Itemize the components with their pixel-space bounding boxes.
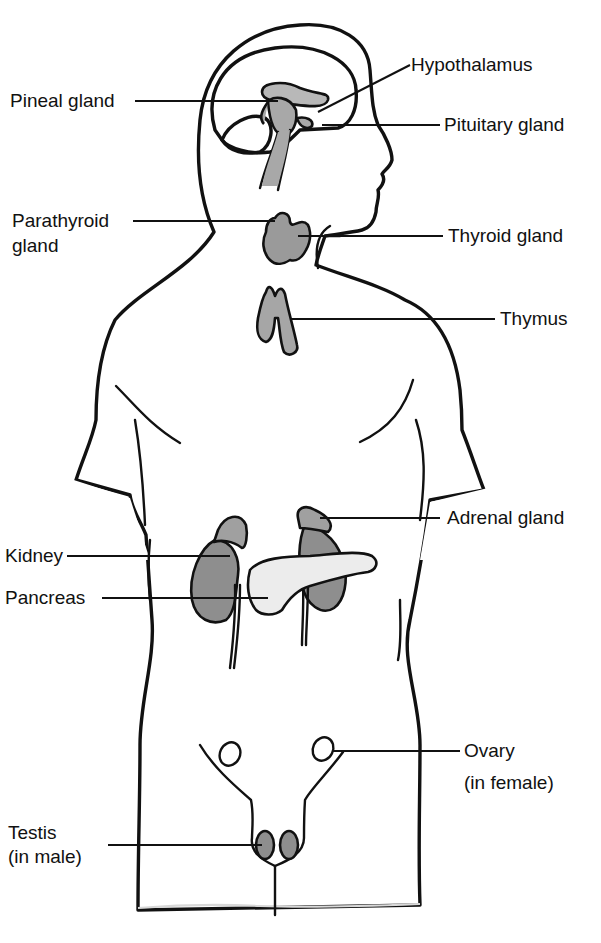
label-pancreas: Pancreas: [5, 587, 85, 609]
label-pituitary-gland: Pituitary gland: [444, 114, 564, 136]
thymus-shape: [257, 287, 297, 354]
leader-lines: [67, 65, 495, 845]
label-ovary-line2: (in female): [464, 772, 554, 794]
label-hypothalamus: Hypothalamus: [411, 54, 532, 76]
label-testis-line2: (in male): [8, 846, 82, 868]
brain: [212, 47, 356, 190]
endocrine-diagram: [0, 0, 601, 943]
label-thymus: Thymus: [500, 308, 568, 330]
reproductive-organs: [200, 734, 343, 915]
label-adrenal-gland: Adrenal gland: [447, 507, 564, 529]
label-kidney: Kidney: [5, 545, 63, 567]
label-thyroid-gland: Thyroid gland: [448, 225, 563, 247]
label-pineal-gland: Pineal gland: [10, 90, 115, 112]
label-parathyroid-gland-line1: Parathyroid: [12, 210, 109, 232]
label-ovary-line1: Ovary: [464, 740, 515, 762]
label-parathyroid-gland-line2: gland: [12, 235, 59, 257]
label-testis-line1: Testis: [8, 822, 57, 844]
